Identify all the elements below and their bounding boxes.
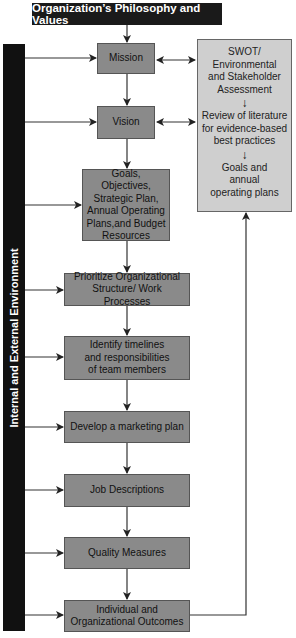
down-arrow-icon: ↓ [198, 96, 291, 110]
swot-item: SWOT/ Environmental and Stakeholder Asse… [198, 46, 291, 96]
literature-review-item: Review of literature for evidence-based … [198, 110, 291, 148]
marketing-box: Develop a marketing plan [64, 411, 190, 443]
goals-box: Goals, Objectives, Strategic Plan, Annua… [82, 169, 170, 241]
down-arrow-icon: ↓ [198, 148, 291, 162]
environment-sidebar-label: Internal and External Environment [8, 248, 20, 427]
identify-box: Identify timelines and responsibilities … [64, 336, 190, 380]
vision-box: Vision [97, 106, 155, 139]
annual-plans-item: Goals and annual operating plans [198, 162, 291, 200]
prioritize-box: Prioritize Organizational Structure/ Wor… [64, 273, 190, 306]
outcomes-box: Individual and Organizational Outcomes [64, 600, 190, 632]
environment-sidebar: Internal and External Environment [3, 44, 25, 631]
assessment-panel: SWOT/ Environmental and Stakeholder Asse… [197, 39, 292, 212]
job-descriptions-box: Job Descriptions [64, 474, 190, 507]
quality-measures-box: Quality Measures [64, 537, 190, 569]
philosophy-values-header: Organization’s Philosophy and Values [32, 3, 222, 25]
mission-box: Mission [97, 43, 155, 74]
